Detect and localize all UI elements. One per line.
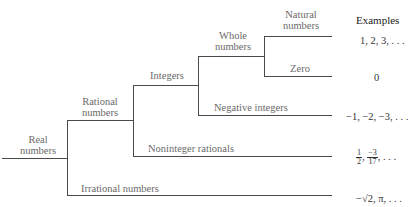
denominator: 17 (367, 158, 378, 166)
node-irrational-numbers: Irrational numbers (81, 183, 159, 194)
connector-real (67, 120, 68, 196)
examples-header: Examples (356, 14, 399, 26)
branch-integers (133, 85, 199, 86)
label-line: Natural (274, 9, 328, 20)
node-whole-numbers: Whole numbers (205, 30, 261, 52)
node-rational-numbers: Rational numbers (70, 96, 130, 118)
branch-whole (198, 56, 264, 57)
example-noninteger: 1 2 , −3 17 , . . . (356, 149, 396, 166)
connector-rational (133, 85, 134, 157)
node-zero: Zero (280, 63, 320, 74)
label-line: numbers (205, 41, 261, 52)
label-line: Rational (70, 96, 130, 107)
node-noninteger-rationals: Noninteger rationals (148, 143, 234, 154)
branch-negative (198, 115, 332, 116)
node-real-numbers: Real numbers (8, 134, 68, 156)
example-natural: 1, 2, 3, . . . (360, 35, 405, 46)
example-negative: −1, −2, −3, . . . (346, 111, 408, 122)
label-line: numbers (70, 107, 130, 118)
branch-zero (264, 76, 332, 77)
label-line: Real (8, 134, 68, 145)
fraction-neg-three-seventeenths: −3 17 (367, 149, 378, 166)
branch-natural (264, 36, 332, 37)
ellipsis: , . . . (378, 151, 396, 162)
branch-irrational (67, 195, 332, 196)
label-line: numbers (8, 145, 68, 156)
branch-rational (67, 120, 133, 121)
label-line: Whole (205, 30, 261, 41)
branch-real (2, 158, 68, 159)
connector-whole (264, 36, 265, 77)
node-integers: Integers (140, 70, 194, 81)
node-negative-integers: Negative integers (214, 102, 288, 113)
example-irrational: −√2, π, . . . (356, 193, 402, 204)
label-line: numbers (274, 20, 328, 31)
node-natural-numbers: Natural numbers (274, 9, 328, 31)
connector-integers (198, 56, 199, 116)
branch-noninteger (133, 156, 332, 157)
example-zero: 0 (374, 72, 379, 83)
